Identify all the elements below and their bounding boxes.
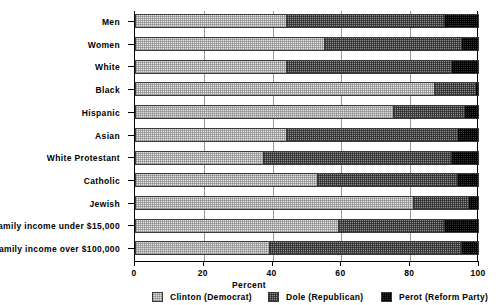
- x-axis-tick: [340, 261, 341, 266]
- bar-segment-dole: [338, 220, 444, 232]
- y-axis-label: Women: [88, 39, 120, 51]
- legend-swatch-dole: [268, 292, 279, 302]
- y-axis-label: Black: [96, 84, 120, 96]
- bar-segment-perot: [464, 106, 478, 118]
- legend-label: Perot (Reform Party): [399, 292, 488, 302]
- x-axis-tick: [203, 261, 204, 266]
- x-axis-tick: [409, 261, 410, 266]
- x-axis-tick: [272, 261, 273, 266]
- bar-segment-clinton: [136, 242, 269, 254]
- bar-segment-clinton: [136, 220, 338, 232]
- legend-swatch-perot: [381, 292, 392, 302]
- bar-segment-dole: [434, 83, 475, 95]
- bar-row: [135, 170, 477, 193]
- bar-row: [135, 238, 477, 261]
- stacked-bar: [135, 14, 479, 28]
- stacked-bar: [135, 60, 479, 74]
- stacked-bar: [135, 128, 479, 142]
- y-axis-label: Men: [102, 16, 120, 28]
- legend-item-clinton[interactable]: Clinton (Democrat): [152, 291, 252, 303]
- y-axis-labels: MenWomenWhiteBlackHispanicAsianWhite Pro…: [0, 11, 128, 261]
- stacked-bar: [135, 37, 479, 51]
- x-axis-title: Percent: [0, 280, 498, 290]
- bar-row: [135, 102, 477, 125]
- bar-row: [135, 147, 477, 170]
- bar-segment-dole: [286, 61, 450, 73]
- x-axis-tick-label: 100: [470, 268, 485, 278]
- y-axis-label: White: [95, 61, 120, 73]
- bar-segment-clinton: [136, 152, 263, 164]
- stacked-bar: [135, 219, 479, 233]
- bar-rows: [135, 11, 477, 261]
- bar-segment-perot: [475, 83, 478, 95]
- bar-segment-clinton: [136, 174, 317, 186]
- bar-segment-clinton: [136, 15, 286, 27]
- bar-segment-clinton: [136, 38, 324, 50]
- x-axis-tick-label: 60: [335, 268, 345, 278]
- stacked-bar: [135, 241, 479, 255]
- bar-segment-dole: [413, 197, 468, 209]
- bar-segment-dole: [263, 152, 451, 164]
- bar-segment-perot: [444, 220, 478, 232]
- bar-segment-dole: [286, 129, 457, 141]
- bar-segment-dole: [286, 15, 443, 27]
- x-axis-tick: [478, 261, 479, 266]
- stacked-bar: [135, 151, 479, 165]
- bar-segment-perot: [451, 61, 478, 73]
- x-axis-tick-label: 0: [131, 268, 136, 278]
- y-axis-label: Catholic: [84, 175, 120, 187]
- bar-row: [135, 125, 477, 148]
- bar-segment-perot: [457, 174, 478, 186]
- y-axis-label: White Protestant: [47, 152, 120, 164]
- bar-segment-clinton: [136, 106, 393, 118]
- bar-segment-perot: [451, 152, 478, 164]
- bar-row: [135, 34, 477, 57]
- bar-row: [135, 193, 477, 216]
- bar-segment-dole: [393, 106, 465, 118]
- y-axis-label: Family income over $100,000: [0, 243, 120, 255]
- legend-item-perot[interactable]: Perot (Reform Party): [381, 291, 488, 303]
- stacked-bar: [135, 105, 479, 119]
- x-axis-tick-label: 20: [198, 268, 208, 278]
- y-axis-label: Asian: [95, 130, 120, 142]
- chart-legend: Clinton (Democrat)Dole (Republican)Perot…: [0, 291, 498, 305]
- bar-row: [135, 11, 477, 34]
- bar-segment-clinton: [136, 129, 286, 141]
- legend-item-dole[interactable]: Dole (Republican): [268, 291, 363, 303]
- y-axis-label: Hispanic: [82, 107, 120, 119]
- plot-area: [134, 11, 478, 261]
- x-axis-tick-label: 80: [404, 268, 414, 278]
- bar-segment-perot: [444, 15, 478, 27]
- bar-segment-dole: [269, 242, 461, 254]
- bar-segment-dole: [324, 38, 461, 50]
- stacked-bar: [135, 173, 479, 187]
- bar-segment-clinton: [136, 83, 434, 95]
- bar-segment-clinton: [136, 197, 413, 209]
- bar-segment-perot: [468, 197, 478, 209]
- bar-row: [135, 56, 477, 79]
- bar-segment-dole: [317, 174, 457, 186]
- bar-segment-perot: [461, 38, 478, 50]
- y-axis-label: Family income under $15,000: [0, 220, 120, 232]
- bar-row: [135, 216, 477, 239]
- bar-segment-perot: [461, 242, 478, 254]
- legend-swatch-clinton: [152, 292, 163, 302]
- stacked-bar-chart: MenWomenWhiteBlackHispanicAsianWhite Pro…: [0, 0, 498, 305]
- legend-label: Dole (Republican): [286, 292, 363, 302]
- bar-row: [135, 79, 477, 102]
- stacked-bar: [135, 196, 479, 210]
- x-axis-line: [134, 261, 478, 262]
- bar-segment-perot: [457, 129, 478, 141]
- x-axis-tick-label: 40: [267, 268, 277, 278]
- legend-label: Clinton (Democrat): [170, 292, 252, 302]
- stacked-bar: [135, 82, 479, 96]
- y-axis-label: Jewish: [90, 198, 120, 210]
- bar-segment-clinton: [136, 61, 286, 73]
- x-axis-tick: [134, 261, 135, 266]
